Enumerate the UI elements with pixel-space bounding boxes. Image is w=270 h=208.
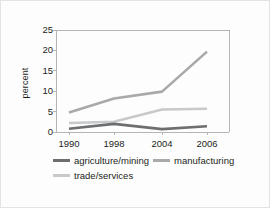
series-line bbox=[69, 52, 207, 113]
legend-swatch-icon bbox=[53, 159, 70, 162]
legend-label: agriculture/mining bbox=[74, 156, 149, 166]
legend-label: trade/services bbox=[74, 171, 133, 181]
legend-label: manufacturing bbox=[174, 156, 234, 166]
axis-frame bbox=[56, 30, 229, 132]
legend-item[interactable]: agriculture/mining bbox=[53, 156, 153, 166]
legend-row: agriculture/miningmanufacturing bbox=[53, 153, 265, 168]
legend-item[interactable]: trade/services bbox=[53, 171, 133, 181]
data-series-group bbox=[69, 52, 207, 130]
series-line bbox=[69, 124, 207, 129]
chart-figure: percent 0510152025 1990199820042006 agri… bbox=[0, 0, 270, 208]
legend-row: trade/services bbox=[53, 168, 265, 183]
legend-swatch-icon bbox=[53, 174, 70, 177]
series-line bbox=[69, 109, 207, 123]
legend-swatch-icon bbox=[153, 159, 170, 162]
legend-item[interactable]: manufacturing bbox=[153, 156, 234, 166]
chart-legend: agriculture/miningmanufacturingtrade/ser… bbox=[53, 153, 265, 183]
axis-ticks bbox=[53, 30, 207, 135]
